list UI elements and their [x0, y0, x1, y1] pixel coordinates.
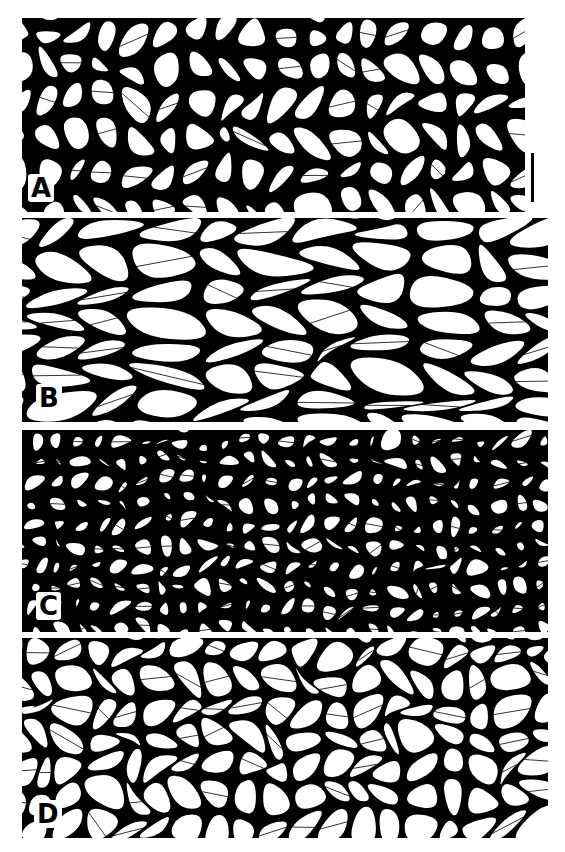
cell [425, 565, 446, 570]
cell [533, 500, 548, 512]
cell [33, 434, 43, 451]
cell [32, 537, 46, 547]
cell [499, 732, 529, 752]
cell [206, 339, 263, 362]
cell [96, 118, 116, 148]
tissue-panel-c [22, 430, 548, 632]
cell [264, 498, 278, 514]
cell [294, 193, 332, 212]
cell [454, 25, 473, 50]
cell [300, 515, 314, 534]
cell [431, 159, 446, 179]
cell [540, 436, 547, 445]
cell [298, 299, 358, 334]
cell [239, 498, 254, 514]
cell [293, 753, 320, 781]
cell [215, 153, 231, 182]
cell [259, 821, 287, 838]
cell [372, 499, 379, 506]
cell [236, 559, 254, 568]
cell [393, 478, 401, 486]
cell [263, 783, 290, 815]
cell [265, 202, 288, 212]
tissue-panel-d [22, 638, 548, 838]
scale-bar [531, 153, 534, 202]
cell [295, 18, 327, 22]
cell [36, 86, 57, 116]
cell [468, 788, 498, 814]
cell [22, 758, 38, 786]
cell [341, 162, 361, 177]
cell [170, 638, 204, 657]
cell [262, 340, 314, 363]
cell [99, 459, 109, 466]
cell [95, 476, 113, 490]
cell [539, 479, 548, 491]
cell [326, 538, 342, 549]
cell [518, 286, 548, 310]
cell [472, 607, 490, 620]
cell [36, 557, 48, 573]
cell [189, 51, 212, 76]
cell [132, 243, 195, 277]
cell [441, 670, 463, 700]
cell [288, 478, 302, 490]
cell [32, 18, 58, 20]
cell [418, 93, 447, 112]
cell [392, 502, 401, 511]
cell [43, 202, 64, 212]
cell [471, 626, 481, 632]
cell [80, 624, 87, 632]
cell [479, 245, 506, 282]
cell [257, 578, 276, 593]
cell [125, 201, 144, 212]
cell [168, 776, 202, 809]
cell [88, 420, 130, 422]
cell [22, 20, 28, 46]
panel-label-a: A [28, 174, 54, 202]
cell [116, 733, 140, 745]
cell [122, 87, 151, 123]
panel-label-d: D [34, 800, 62, 828]
cell [233, 666, 259, 690]
cell [27, 638, 50, 665]
cell [22, 397, 23, 422]
cell [367, 413, 405, 422]
cell [164, 493, 170, 499]
cell [474, 95, 508, 114]
cell [532, 520, 544, 532]
cell [138, 390, 197, 418]
cell [469, 665, 486, 700]
cell [474, 456, 480, 462]
cell [78, 220, 144, 239]
cell [140, 817, 169, 838]
cell [462, 818, 496, 838]
cell [413, 561, 423, 572]
cell [457, 124, 470, 157]
cell [354, 218, 398, 220]
cell [317, 642, 353, 672]
cell [311, 362, 352, 390]
cell [179, 538, 191, 555]
cell [286, 562, 301, 574]
cell [120, 67, 145, 84]
cell [544, 646, 548, 667]
cell [326, 493, 338, 503]
cell [476, 124, 503, 151]
cell [63, 22, 90, 43]
cell [390, 607, 405, 617]
cell [39, 218, 74, 247]
cell [389, 540, 404, 549]
cell [401, 156, 425, 186]
cell [261, 524, 279, 531]
cell [173, 700, 202, 723]
cell [50, 723, 83, 754]
cell [266, 725, 283, 760]
cell [153, 22, 177, 48]
cell [71, 472, 89, 488]
cell [454, 547, 459, 552]
cell [471, 341, 525, 366]
cell [24, 519, 44, 529]
cell [470, 704, 488, 730]
cell [297, 391, 354, 409]
